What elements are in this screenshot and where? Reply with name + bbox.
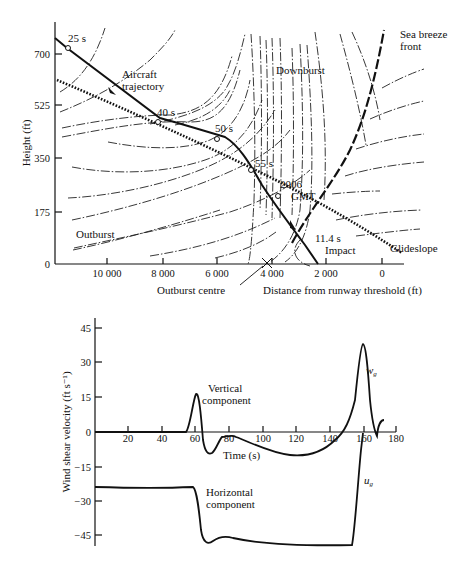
- y-tick-label: 45: [81, 323, 92, 334]
- outburst-centre-marker: [262, 258, 272, 268]
- bottom-chart: 45 30 15 0 −15 −30 −45 20 40 60 80 100 1…: [60, 318, 404, 546]
- x-tick-label: 100: [255, 433, 271, 444]
- label-horizontal-component: component: [206, 498, 255, 510]
- label-vertical-component: component: [202, 394, 251, 406]
- y-tick-label: 175: [34, 207, 50, 218]
- time-marker-2006gmt: [276, 194, 281, 199]
- label-outburst: Outburst: [76, 228, 115, 240]
- x-ticks: [107, 258, 382, 264]
- label-aircraft: Aircraft: [122, 68, 157, 80]
- label-glideslope: Glideslope: [390, 242, 438, 254]
- x-tick-label: 180: [388, 433, 404, 444]
- time-marker-50s: [215, 137, 220, 142]
- label-vertical: Vertical: [208, 382, 242, 394]
- label-downburst: Downburst: [276, 64, 325, 76]
- x-tick-label: 10 000: [93, 268, 122, 279]
- x-tick-label: 4 000: [260, 268, 284, 279]
- label-25s: 25 s: [68, 32, 86, 44]
- top-chart: 0 175 350 525 700 10 000 8 000 6 000 4 0…: [20, 22, 447, 297]
- arrow-icon: [108, 87, 116, 95]
- y-axis-label: Height (ft): [20, 119, 33, 166]
- label-sea-breeze: Sea breeze: [400, 28, 447, 40]
- x-tick-label: 120: [288, 433, 304, 444]
- x-tick-label: 40: [157, 433, 168, 444]
- y-ticks: [55, 54, 62, 212]
- y-tick-label: 525: [34, 100, 50, 111]
- x-tick-label: 60: [190, 433, 201, 444]
- x-tick-label: 160: [356, 433, 372, 444]
- y-tick-label: 0: [86, 427, 91, 438]
- y-tick-label: 700: [34, 49, 50, 60]
- figure: 0 175 350 525 700 10 000 8 000 6 000 4 0…: [0, 0, 460, 564]
- x-tick-label: 80: [224, 433, 235, 444]
- x-tick-label: 0: [379, 268, 384, 279]
- label-horizontal: Horizontal: [206, 486, 253, 498]
- label-impact: Impact: [325, 244, 356, 256]
- y-tick-label: 0: [45, 259, 50, 270]
- label-front: front: [400, 40, 421, 52]
- sea-breeze-front-line: [292, 30, 384, 243]
- label-wg: wg: [366, 364, 377, 378]
- label-trajectory: trajectory: [122, 80, 165, 92]
- label-55s: 55 s: [255, 157, 273, 169]
- y-axis-label: Wind shear velocity (ft s⁻¹): [60, 371, 73, 492]
- label-ug: ug: [364, 474, 374, 488]
- x-tick-label: 2 000: [314, 268, 338, 279]
- label-50s: 50 s: [215, 122, 233, 134]
- x-axis-label: Time (s): [223, 449, 261, 462]
- x-tick-label: 8 000: [151, 268, 175, 279]
- y-tick-label: 15: [81, 392, 92, 403]
- y-tick-label: 30: [81, 357, 92, 368]
- time-marker-55s: [249, 168, 254, 173]
- y-tick-label: −15: [75, 462, 91, 473]
- y-tick-label: −45: [75, 530, 91, 541]
- y-tick-label: 350: [34, 153, 50, 164]
- label-40s: 40 s: [157, 106, 175, 118]
- label-2006: 2006: [280, 178, 303, 190]
- label-11-4s: 11.4 s: [315, 232, 341, 244]
- label-gmt: GMT: [291, 190, 316, 202]
- x-axis-label: Distance from runway threshold (ft): [263, 284, 422, 297]
- contour-lines: [60, 28, 424, 266]
- time-marker-25s: [66, 46, 71, 51]
- x-tick-label: 6 000: [205, 268, 229, 279]
- time-marker-40s: [156, 120, 161, 125]
- y-tick-label: −30: [75, 496, 91, 507]
- x-tick-label: 20: [123, 433, 134, 444]
- label-outburst-centre: Outburst centre: [157, 284, 225, 296]
